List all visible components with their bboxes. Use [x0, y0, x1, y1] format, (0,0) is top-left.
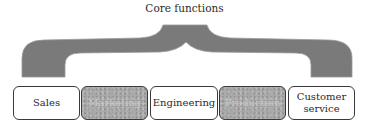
- function-label: Production: [225, 97, 281, 109]
- function-box-production: Production: [219, 86, 286, 120]
- function-box-marketing: Marketing: [81, 86, 148, 120]
- function-box-engineering: Engineering: [150, 86, 218, 120]
- function-box-customer-service: Customer service: [288, 86, 355, 120]
- function-label: Marketing: [88, 97, 141, 109]
- function-box-sales: Sales: [13, 86, 80, 120]
- function-label: Customer service: [295, 91, 348, 115]
- function-label: Sales: [33, 97, 60, 109]
- function-label: Engineering: [153, 97, 215, 109]
